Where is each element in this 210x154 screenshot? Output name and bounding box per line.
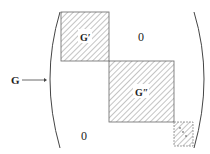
right-parenthesis bbox=[194, 12, 204, 148]
block-g-prime: G′ bbox=[61, 12, 109, 61]
block-continuation bbox=[174, 122, 193, 146]
zero-lower-left: 0 bbox=[81, 129, 87, 143]
zero-upper-right: 0 bbox=[138, 30, 144, 44]
ellipsis-dot-icon bbox=[185, 135, 187, 137]
ellipsis-dot-icon bbox=[182, 131, 184, 133]
matrix-label-g: G bbox=[11, 74, 20, 86]
block-diagonal-matrix-diagram: G G′ G″ 0 0 bbox=[0, 0, 210, 154]
block-label-g-double-prime: G″ bbox=[135, 87, 148, 98]
block-g-double-prime: G″ bbox=[109, 61, 174, 122]
arrow-icon bbox=[22, 78, 47, 82]
block-label-g-prime: G′ bbox=[80, 32, 91, 43]
left-parenthesis bbox=[50, 12, 60, 148]
ellipsis-dot-icon bbox=[179, 127, 181, 129]
